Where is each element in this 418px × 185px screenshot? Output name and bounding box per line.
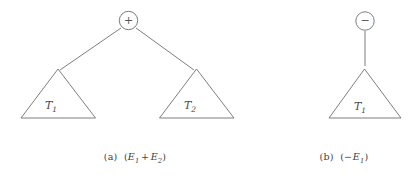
root-node-b[interactable]: − xyxy=(356,12,374,30)
caption-a-index: (a) xyxy=(104,151,118,162)
triangle-shape-t1 xyxy=(21,69,96,118)
expression-tree-a: + T1 T2 xyxy=(0,0,270,140)
figure-panel-a: + T1 T2 (a) (E1+E2) xyxy=(0,0,270,185)
caption-b: (b) (−E1) xyxy=(270,151,418,165)
caption-b-right-operand: E xyxy=(353,151,360,162)
figure-panel-b: − T1 (b) (−E1) xyxy=(270,0,418,185)
subtree-label-t1-sub: 1 xyxy=(52,105,57,114)
edge-root-to-right-subtree xyxy=(136,28,194,70)
subtree-label-t2-sub: 2 xyxy=(190,105,196,114)
caption-b-operator: − xyxy=(344,151,353,162)
subtree-triangle-t2[interactable]: T2 xyxy=(160,69,235,118)
subtree-triangle-t1-b[interactable]: T1 xyxy=(329,69,401,118)
root-operator-symbol-a: + xyxy=(124,14,133,27)
figure-root: + T1 T2 (a) (E1+E2) xyxy=(0,0,418,185)
caption-a-close-paren: ) xyxy=(162,151,166,162)
caption-b-index: (b) xyxy=(320,151,334,162)
subtree-label-t1-b-sub: 1 xyxy=(361,106,366,115)
caption-a: (a) (E1+E2) xyxy=(0,151,270,165)
edge-root-to-left-subtree xyxy=(60,28,121,70)
subtree-triangle-t1[interactable]: T1 xyxy=(21,69,96,118)
caption-b-close-paren: ) xyxy=(364,151,368,162)
root-node-a[interactable]: + xyxy=(119,11,137,29)
triangle-shape-t2 xyxy=(160,69,235,118)
root-operator-symbol-b: − xyxy=(360,14,369,27)
expression-tree-b: − T1 xyxy=(270,0,418,140)
caption-a-left-operand: E xyxy=(128,151,135,162)
caption-a-operator: + xyxy=(139,151,150,162)
caption-a-right-operand: E xyxy=(151,151,158,162)
